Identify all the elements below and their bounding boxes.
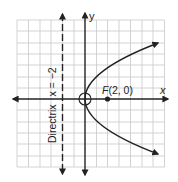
x-axis-label: x <box>159 84 166 96</box>
directrix-label-word: Directrix <box>46 104 58 143</box>
focus-label: F(2, 0) <box>102 84 133 96</box>
directrix-label: Directrixx = −2 <box>46 67 58 143</box>
focus-point <box>105 96 110 101</box>
grid <box>17 20 165 167</box>
y-axis-label: y <box>89 10 95 22</box>
directrix-label-equation: x = −2 <box>46 67 58 96</box>
parabola-diagram: y x F(2, 0) Directrixx = −2 <box>0 0 178 182</box>
focus-label-coords: (2, 0) <box>108 84 133 96</box>
